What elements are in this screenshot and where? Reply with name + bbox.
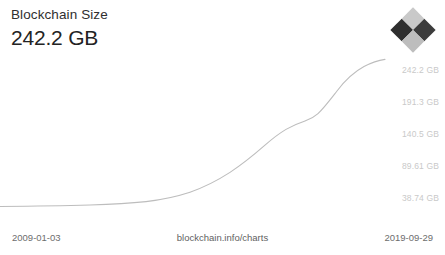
y-axis-label-4: 38.74 GB bbox=[402, 193, 439, 203]
chart-line-svg bbox=[0, 55, 445, 220]
page-title: Blockchain Size bbox=[11, 6, 108, 23]
blockchain-diamond-logo bbox=[390, 7, 436, 53]
y-axis-label-1: 191.3 GB bbox=[402, 97, 439, 107]
y-axis-label-0: 242.2 GB bbox=[402, 65, 439, 75]
source-link[interactable]: blockchain.info/charts bbox=[177, 231, 268, 245]
x-axis-end-date: 2019-09-29 bbox=[384, 231, 433, 245]
y-axis-label-2: 140.5 GB bbox=[402, 129, 439, 139]
x-axis-start-date: 2009-01-03 bbox=[12, 231, 61, 245]
chart-footer: 2009-01-03 blockchain.info/charts 2019-0… bbox=[0, 231, 445, 245]
chart-plot-area: 242.2 GB 191.3 GB 140.5 GB 89.61 GB 38.7… bbox=[0, 55, 445, 220]
blockchain-size-chart-widget: Blockchain Size 242.2 GB 242.2 GB 191.3 … bbox=[0, 0, 445, 255]
chart-header: Blockchain Size 242.2 GB bbox=[11, 6, 108, 51]
current-value: 242.2 GB bbox=[11, 25, 108, 51]
y-axis-label-3: 89.61 GB bbox=[402, 161, 439, 171]
blockchain-size-line bbox=[0, 59, 385, 206]
blockchain-diamond-logo-icon bbox=[390, 7, 436, 53]
